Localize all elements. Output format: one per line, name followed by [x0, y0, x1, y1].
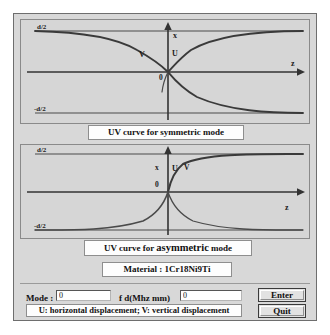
axis-vertical-arrowhead: [164, 22, 171, 30]
control-strip: Mode : f d(Mhz mm) U: horizontal displac…: [20, 286, 310, 316]
curve-u-upper-right: [168, 31, 303, 72]
caption-asymmetric-suffix: mode: [209, 243, 232, 253]
plot-symmetric-mode: d/2 -d/2 x z 0 V U: [20, 19, 310, 124]
axis-horizontal-arrowhead: [297, 188, 305, 196]
curve-label-v: V: [184, 163, 190, 172]
plot-symmetric-svg: d/2 -d/2 x z 0 V U: [21, 20, 309, 123]
ytick-bottom-label: -d/2: [34, 222, 46, 230]
fd-label: f d(Mhz mm): [119, 293, 170, 304]
caption-symmetric-mode: UV curve for symmetric mode: [88, 125, 244, 140]
scanned-page: d/2 -d/2 x z 0 V U UV curve for symmetri…: [0, 0, 330, 335]
mode-input[interactable]: [56, 290, 111, 301]
fd-input[interactable]: [180, 290, 242, 301]
origin-label: 0: [159, 73, 163, 82]
caption-asymmetric-emphasis: asymmetric: [156, 242, 208, 253]
curve-label-u: U: [172, 49, 178, 58]
axis-vertical-arrowhead: [164, 146, 171, 154]
mode-label: Mode :: [26, 293, 53, 304]
curve-lower-right: [168, 72, 303, 113]
panel-divider: [20, 283, 310, 284]
axis-horizontal-label: z: [285, 203, 289, 212]
caption-asymmetric-mode: UV curve for asymmetric mode: [84, 240, 252, 256]
enter-button[interactable]: Enter: [258, 288, 306, 302]
enter-button-label: Enter: [260, 290, 304, 300]
axis-horizontal-arrowhead: [297, 68, 305, 76]
axis-vertical-label: x: [173, 31, 177, 40]
plot-asymmetric-mode: d/2 -d/2 x z 0 U V: [20, 144, 310, 239]
ytick-top-label: d/2: [37, 146, 47, 154]
material-plate: Material : 1Cr18Ni9Ti: [102, 262, 232, 277]
caption-asymmetric-prefix: UV curve for: [104, 243, 156, 253]
axis-vertical-label: x: [155, 163, 159, 172]
quit-button-label: Quit: [260, 306, 304, 316]
plot-asymmetric-svg: d/2 -d/2 x z 0 U V: [21, 145, 309, 238]
application-window: d/2 -d/2 x z 0 V U UV curve for symmetri…: [13, 13, 317, 321]
curve-lower-left-tail: [162, 72, 168, 92]
curve-label-u: U: [172, 164, 178, 173]
curve-label-v: V: [139, 50, 145, 59]
axis-horizontal-label: z: [291, 59, 295, 68]
curve-u-upper-right: [168, 154, 303, 192]
ytick-bottom-label: -d/2: [34, 105, 46, 113]
curve-v-lower-left: [35, 192, 168, 230]
quit-button[interactable]: Quit: [258, 304, 306, 318]
origin-label: 0: [155, 180, 159, 189]
curve-v-lower-right: [168, 192, 303, 230]
ytick-top-label: d/2: [37, 23, 47, 31]
status-legend-text: U: horizontal displacement; V: vertical …: [26, 304, 242, 317]
curve-v-upper-left: [35, 31, 168, 72]
